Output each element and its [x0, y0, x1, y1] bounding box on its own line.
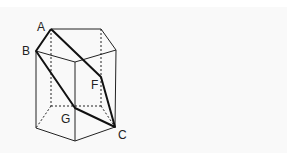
label-F: F [91, 78, 98, 92]
edge-top-right-front [75, 50, 116, 62]
edge-right-vertical [115, 50, 116, 127]
label-G: G [61, 112, 70, 126]
pentagonal-prism-diagram: A B F G C [0, 0, 301, 164]
label-C: C [118, 128, 127, 142]
edge-bottom-left-front [36, 128, 75, 141]
label-B: B [22, 44, 30, 58]
edge-bottom-right-front [75, 127, 115, 141]
label-A: A [37, 20, 45, 34]
edge-top-right-back [101, 29, 116, 50]
hidden-edge-bottom-left-back [36, 106, 51, 128]
